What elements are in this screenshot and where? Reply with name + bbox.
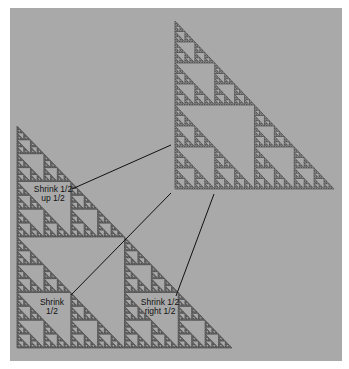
label-shrink-line2: 1/2 bbox=[40, 307, 64, 316]
connector-line-1 bbox=[72, 145, 171, 189]
connector-line-3 bbox=[176, 194, 214, 296]
label-right-line2: right 1/2 bbox=[141, 307, 179, 316]
label-shrink: Shrink 1/2 bbox=[40, 298, 64, 316]
label-shrink-up: Shrink 1/2 up 1/2 bbox=[34, 185, 72, 203]
sierpinski-triangle-original bbox=[175, 21, 334, 189]
label-shrink-right: Shrink 1/2 right 1/2 bbox=[141, 298, 179, 316]
label-up-line2: up 1/2 bbox=[34, 194, 72, 203]
